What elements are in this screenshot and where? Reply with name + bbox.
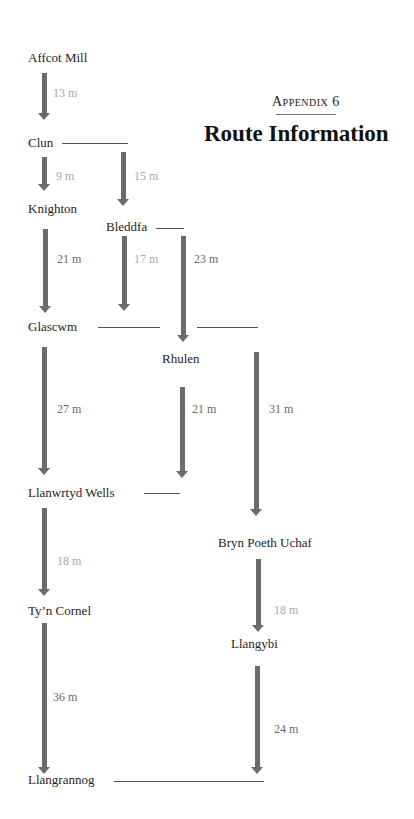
- distance-bryn-llangybi: 18 m: [274, 603, 298, 617]
- place-llangybi: Llangybi: [231, 636, 278, 652]
- appendix-label: Appendix 6: [272, 94, 340, 110]
- arrow-down-icon: [256, 559, 261, 626]
- arrow-down-icon: [43, 229, 48, 307]
- arrow-down-icon: [122, 236, 127, 305]
- page-title: Route Information: [204, 121, 389, 147]
- place-bryn-poeth-uchaf: Bryn Poeth Uchaf: [218, 535, 312, 551]
- distance-knighton-glascwm: 21 m: [57, 252, 81, 266]
- place-llanwrtyd-wells: Llanwrtyd Wells: [28, 485, 114, 501]
- arrow-down-icon: [42, 347, 47, 469]
- connector-glascwm-left: [98, 327, 160, 328]
- distance-llangybi-llangrannog: 24 m: [274, 722, 298, 736]
- connector-llanwrtyd-wells: [144, 493, 180, 494]
- distance-bleddfa-glascwm: 17 m: [134, 252, 158, 266]
- place-bleddfa: Bleddfa: [106, 219, 147, 235]
- arrow-down-icon: [121, 152, 126, 200]
- connector-glascwm-right: [197, 327, 258, 328]
- appendix-divider: [276, 114, 336, 115]
- place-tyn-cornel: Ty’n Cornel: [28, 603, 91, 619]
- place-llangrannog: Llangrannog: [28, 772, 94, 788]
- distance-bleddfa-rhulen: 23 m: [194, 252, 218, 266]
- connector-bleddfa: [156, 228, 184, 229]
- arrow-down-icon: [42, 73, 47, 114]
- arrow-down-icon: [42, 508, 47, 590]
- connector-llangrannog: [114, 781, 264, 782]
- arrow-down-icon: [42, 157, 47, 185]
- distance-clun-knighton: 9 m: [56, 169, 74, 183]
- place-glascwm: Glascwm: [28, 319, 77, 335]
- place-clun: Clun: [28, 135, 53, 151]
- connector-clun: [62, 143, 128, 144]
- arrow-down-icon: [42, 623, 47, 768]
- arrow-down-icon: [180, 387, 185, 472]
- distance-rhulen-llanwrtyd: 21 m: [192, 402, 216, 416]
- distance-tyn-llangrannog: 36 m: [53, 690, 77, 704]
- place-knighton: Knighton: [28, 201, 77, 217]
- arrow-down-icon: [254, 352, 259, 510]
- distance-clun-bleddfa: 15 m: [134, 169, 158, 183]
- distance-affcot-clun: 13 m: [53, 86, 77, 100]
- place-rhulen: Rhulen: [162, 351, 200, 367]
- arrow-down-icon: [255, 666, 260, 768]
- distance-glascwm-bryn: 31 m: [269, 402, 293, 416]
- distance-glascwm-llanwrtyd: 27 m: [57, 402, 81, 416]
- place-affcot-mill: Affcot Mill: [28, 50, 87, 66]
- distance-llanwrtyd-tyn: 18 m: [57, 554, 81, 568]
- arrow-down-icon: [181, 236, 186, 336]
